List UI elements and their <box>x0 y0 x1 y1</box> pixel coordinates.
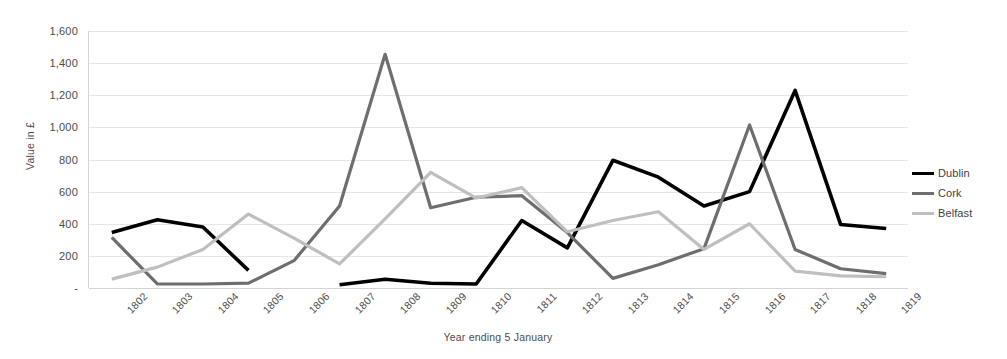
series-layer <box>89 31 909 288</box>
y-axis-tick-1,000: 1,000 <box>49 121 78 133</box>
x-axis-tick-1806: 1806 <box>306 290 332 316</box>
x-axis-tick-1817: 1817 <box>807 290 833 316</box>
x-axis-tick-1811: 1811 <box>534 290 559 315</box>
y-axis-tick-800: 800 <box>59 154 78 166</box>
plot-area <box>88 31 908 288</box>
chart-legend: DublinCorkBelfast <box>912 163 1007 223</box>
x-axis-tick-1818: 1818 <box>853 290 879 316</box>
x-axis-tick-1819: 1819 <box>898 290 924 316</box>
y-axis-tick-200: 200 <box>59 250 78 262</box>
legend-swatch-icon <box>912 192 934 195</box>
legend-item-belfast[interactable]: Belfast <box>912 203 1007 223</box>
x-axis-tick-1804: 1804 <box>215 290 241 316</box>
x-axis-tick-1803: 1803 <box>169 290 195 316</box>
line-chart: Value in £ -2004006008001,0001,2001,4001… <box>0 0 1007 359</box>
x-axis-tick-1813: 1813 <box>625 290 651 316</box>
x-axis-tick-1802: 1802 <box>124 290 150 316</box>
legend-label: Belfast <box>938 207 972 219</box>
x-axis-tick-labels: 1802180318041805180618071808180918101811… <box>88 290 908 334</box>
legend-label: Cork <box>938 187 962 199</box>
x-axis-tick-1805: 1805 <box>261 290 287 316</box>
x-axis-tick-1807: 1807 <box>352 290 378 316</box>
series-line-belfast <box>112 172 886 279</box>
x-axis-title: Year ending 5 January <box>88 331 908 343</box>
x-axis-tick-1815: 1815 <box>716 290 742 316</box>
series-line-dublin <box>340 90 887 284</box>
series-line-dublin <box>112 220 249 271</box>
y-axis-tick-1,200: 1,200 <box>49 89 78 101</box>
legend-item-dublin[interactable]: Dublin <box>912 163 1007 183</box>
legend-swatch-icon <box>912 212 934 215</box>
y-axis-tick-1,600: 1,600 <box>49 25 78 37</box>
legend-item-cork[interactable]: Cork <box>912 183 1007 203</box>
x-axis-tick-1816: 1816 <box>762 290 788 316</box>
legend-label: Dublin <box>938 167 970 179</box>
x-axis-tick-1808: 1808 <box>397 290 423 316</box>
legend-swatch-icon <box>912 172 934 175</box>
y-axis-tick-600: 600 <box>59 186 78 198</box>
x-axis-tick-1810: 1810 <box>488 290 514 316</box>
y-axis-tick--: - <box>74 282 78 294</box>
x-axis-tick-1814: 1814 <box>671 290 697 316</box>
y-axis-tick-labels: -2004006008001,0001,2001,4001,600 <box>0 0 86 359</box>
gridline <box>89 288 908 289</box>
y-axis-tick-1,400: 1,400 <box>49 57 78 69</box>
x-axis-tick-1809: 1809 <box>443 290 469 316</box>
x-axis-tick-1812: 1812 <box>579 290 605 316</box>
y-axis-tick-400: 400 <box>59 218 78 230</box>
